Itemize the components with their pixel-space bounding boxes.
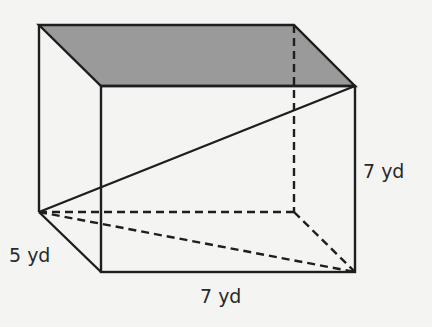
front-face-outline: [101, 86, 355, 272]
length-label: 7 yd: [200, 285, 241, 307]
rectangular-prism-diagram: 5 yd 7 yd 7 yd: [0, 0, 432, 327]
height-label: 7 yd: [363, 160, 404, 182]
top-face-shaded: [39, 25, 355, 86]
hidden-edge-right-bottom-depth: [294, 212, 355, 272]
depth-label: 5 yd: [9, 244, 50, 266]
space-diagonal: [39, 86, 355, 212]
hidden-base-diagonal: [39, 212, 355, 272]
